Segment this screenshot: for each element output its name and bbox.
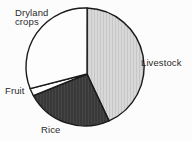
pie-chart: Dryland crops Livestock Fruit Rice <box>0 0 192 141</box>
slice-label-dryland-crops: Dryland crops <box>15 9 48 26</box>
slice-label-fruit: Fruit <box>5 87 25 96</box>
slice-label-livestock: Livestock <box>141 59 182 68</box>
slice-label-rice: Rice <box>41 126 60 135</box>
